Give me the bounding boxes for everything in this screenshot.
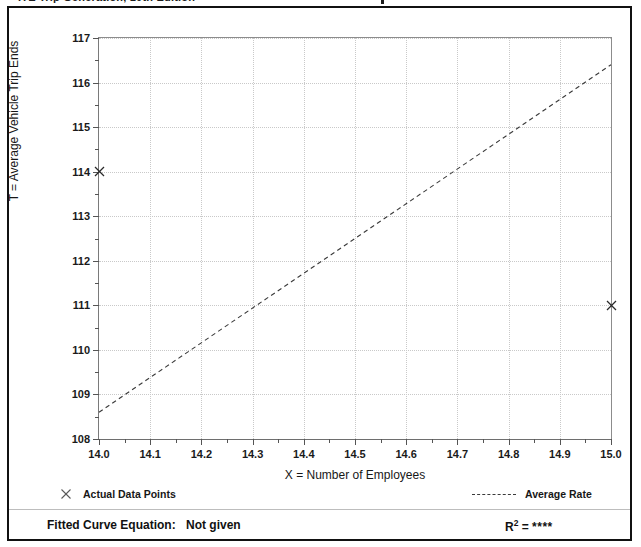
fitted-curve-label: Fitted Curve Equation: [47, 518, 176, 532]
chart-footer: Fitted Curve Equation: Not given R2 = **… [0, 518, 641, 542]
x-axis-tick-label: 14.2 [191, 448, 212, 460]
legend-label-average-rate: Average Rate [525, 488, 592, 500]
chart-legend: Actual Data Points Average Rate [0, 488, 641, 510]
x-marker-icon [60, 488, 72, 500]
x-axis-tick-label: 14.5 [344, 448, 365, 460]
y-axis-tick-label: 108 [72, 433, 90, 445]
x-axis-tick-label: 14.6 [395, 448, 416, 460]
r-squared-equals: = [522, 520, 529, 534]
clipped-header-text: ITE Trip Generation, 10th Edition [18, 0, 195, 3]
data-point-marker [606, 300, 617, 311]
y-axis-tick-label: 116 [72, 77, 90, 89]
x-axis-tick-label: 15.0 [600, 448, 621, 460]
x-axis-tick-label: 14.9 [549, 448, 570, 460]
fitted-curve-value: Not given [186, 518, 241, 532]
clipped-header-strip: ITE Trip Generation, 10th Edition [0, 0, 641, 4]
average-rate-trendline [99, 38, 613, 441]
r-squared-exponent: 2 [514, 518, 519, 528]
y-axis-tick-label: 113 [72, 210, 90, 222]
plot-area: 14.014.114.214.314.414.514.614.714.814.9… [98, 37, 612, 440]
legend-entry-average-rate: Average Rate [472, 488, 592, 500]
x-axis-tick-label: 14.0 [88, 448, 109, 460]
y-axis-tick-label: 112 [72, 255, 90, 267]
dashed-line-icon [472, 494, 516, 495]
x-axis-tick-label: 14.4 [293, 448, 314, 460]
y-axis-tick-label: 111 [73, 299, 90, 311]
x-axis-title: X = Number of Employees [98, 468, 612, 482]
r-squared-value: **** [532, 520, 553, 534]
data-point-marker [94, 166, 105, 177]
data-layer [99, 38, 611, 439]
y-axis-tick-label: 110 [72, 344, 90, 356]
y-axis-tick-label: 115 [72, 121, 90, 133]
r-squared-label: R [505, 520, 514, 534]
r-squared-statistic: R2 = **** [505, 518, 553, 534]
fitted-curve-equation: Fitted Curve Equation: Not given [47, 518, 241, 532]
chart-page: ITE Trip Generation, 10th Edition 14.014… [0, 0, 641, 547]
x-axis-tick-label: 14.8 [498, 448, 519, 460]
y-axis-tick-label: 109 [72, 388, 90, 400]
x-axis-tick-label: 14.7 [447, 448, 468, 460]
clipped-header-tick [381, 0, 384, 4]
y-axis-tick-label: 117 [72, 32, 90, 44]
legend-label-actual-data-points: Actual Data Points [83, 488, 176, 500]
y-axis-tick-label: 114 [72, 166, 90, 178]
x-axis-tick-label: 14.3 [242, 448, 263, 460]
y-axis-title: T = Average Vehicle Trip Ends [7, 0, 21, 331]
x-axis-tick-label: 14.1 [139, 448, 160, 460]
legend-entry-actual-data-points: Actual Data Points [60, 488, 176, 500]
